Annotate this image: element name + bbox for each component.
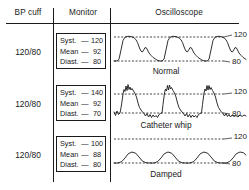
leader-80 bbox=[224, 61, 230, 62]
diastolic-value: 80 bbox=[91, 160, 102, 171]
systolic-label: Syst. bbox=[60, 36, 79, 47]
dash-separator: — bbox=[79, 36, 91, 47]
mean-label: Mean bbox=[60, 150, 79, 161]
dash-separator: — bbox=[79, 47, 91, 58]
dash-separator: — bbox=[79, 139, 91, 150]
mean-value: 88 bbox=[91, 150, 102, 161]
oscilloscope-pane-damped: 120 80 Damped bbox=[112, 131, 249, 183]
table-row: 120/80 Syst. — 120 Mean — 92 Diast. — 80 bbox=[0, 28, 249, 80]
bp-cuff-value: 120/80 bbox=[4, 47, 52, 57]
waveform-label-catheter-whip: Catheter whip bbox=[112, 120, 220, 130]
dash-separator: — bbox=[79, 109, 91, 120]
monitor-mean-line: Mean — 88 bbox=[60, 150, 102, 161]
oscilloscope-pane-catheter-whip: 120 80 Catheter whip bbox=[112, 80, 249, 132]
diastolic-label: Diast. bbox=[60, 57, 79, 68]
bp-cuff-value: 120/80 bbox=[4, 99, 52, 109]
bp-waveform-figure: BP cuff Monitor Oscilloscope 120/80 Syst… bbox=[0, 0, 249, 190]
bp-cuff-value: 120/80 bbox=[4, 150, 52, 160]
axis-label-80: 80 bbox=[232, 109, 241, 118]
monitor-mean-line: Mean — 92 bbox=[60, 99, 102, 110]
systolic-value: 120 bbox=[91, 36, 104, 47]
diastolic-value: 70 bbox=[91, 109, 102, 120]
waveform-trace-damped bbox=[114, 152, 246, 163]
diastolic-label: Diast. bbox=[60, 160, 79, 171]
monitor-diastolic-line: Diast. — 80 bbox=[60, 57, 102, 68]
diastolic-value: 80 bbox=[91, 57, 102, 68]
waveform-label-damped: Damped bbox=[112, 169, 220, 179]
mean-label: Mean bbox=[60, 47, 79, 58]
monitor-diastolic-line: Diast. — 80 bbox=[60, 160, 102, 171]
mean-label: Mean bbox=[60, 99, 79, 110]
waveform-trace-catheter-whip bbox=[114, 85, 246, 118]
systolic-value: 140 bbox=[91, 88, 104, 99]
table-row: 120/80 Syst. — 100 Mean — 88 Diast. — 80 bbox=[0, 131, 249, 183]
monitor-systolic-line: Syst. — 120 bbox=[60, 36, 102, 47]
mean-value: 92 bbox=[91, 99, 102, 110]
table-row: 120/80 Syst. — 140 Mean — 92 Diast. — 70 bbox=[0, 80, 249, 132]
dash-separator: — bbox=[79, 99, 91, 110]
mean-value: 92 bbox=[91, 47, 102, 58]
leader-120 bbox=[224, 93, 232, 94]
header-bp-cuff: BP cuff bbox=[4, 8, 52, 17]
axis-label-80: 80 bbox=[232, 159, 241, 168]
systolic-label: Syst. bbox=[60, 88, 79, 99]
monitor-mean-line: Mean — 92 bbox=[60, 47, 102, 58]
figure-header: BP cuff Monitor Oscilloscope bbox=[0, 8, 249, 22]
leader-120 bbox=[224, 35, 232, 37]
header-oscilloscope: Oscilloscope bbox=[112, 8, 246, 17]
monitor-readout-box: Syst. — 120 Mean — 92 Diast. — 80 bbox=[56, 33, 106, 69]
axis-label-80: 80 bbox=[232, 57, 241, 66]
monitor-readout-box: Syst. — 100 Mean — 88 Diast. — 80 bbox=[56, 136, 106, 172]
waveform-label-normal: Normal bbox=[112, 66, 220, 76]
dash-separator: — bbox=[79, 150, 91, 161]
axis-label-120: 120 bbox=[234, 132, 247, 141]
dash-separator: — bbox=[79, 57, 91, 68]
dash-separator: — bbox=[79, 88, 91, 99]
oscilloscope-pane-normal: 120 80 Normal bbox=[112, 28, 249, 80]
diastolic-label: Diast. bbox=[60, 109, 79, 120]
axis-label-120: 120 bbox=[234, 30, 247, 39]
header-monitor: Monitor bbox=[56, 8, 110, 17]
leader-80 bbox=[224, 113, 230, 114]
waveform-trace-normal bbox=[114, 36, 246, 61]
systolic-label: Syst. bbox=[60, 139, 79, 150]
axis-label-120: 120 bbox=[234, 87, 247, 96]
monitor-readout-box: Syst. — 140 Mean — 92 Diast. — 70 bbox=[56, 85, 106, 121]
dash-separator: — bbox=[79, 160, 91, 171]
monitor-systolic-line: Syst. — 140 bbox=[60, 88, 102, 99]
header-underline bbox=[6, 23, 239, 24]
leader-120 bbox=[224, 138, 232, 139]
monitor-systolic-line: Syst. — 100 bbox=[60, 139, 102, 150]
systolic-value: 100 bbox=[91, 139, 104, 150]
monitor-diastolic-line: Diast. — 70 bbox=[60, 109, 102, 120]
